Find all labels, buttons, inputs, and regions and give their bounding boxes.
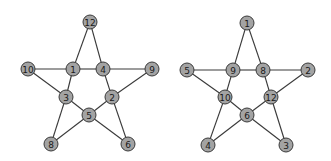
- node-label: 5: [184, 66, 190, 76]
- node-9: 9: [145, 62, 159, 76]
- node-4: 4: [96, 62, 110, 76]
- node-label: 3: [283, 141, 289, 151]
- node-8: 8: [44, 137, 58, 151]
- graph-diagrams: 121014932586159821012643: [0, 0, 331, 161]
- node-6: 6: [121, 137, 135, 151]
- node-label: 9: [230, 66, 236, 76]
- node-label: 12: [84, 18, 95, 28]
- node-5: 5: [180, 63, 194, 77]
- node-label: 3: [63, 93, 69, 103]
- diagram-canvas: 121014932586159821012643: [0, 0, 331, 161]
- left-star: 121014932586: [21, 15, 159, 151]
- node-8: 8: [256, 63, 270, 77]
- node-10: 10: [21, 62, 35, 76]
- node-label: 5: [86, 111, 92, 121]
- node-3: 3: [59, 90, 73, 104]
- node-label: 6: [244, 111, 250, 121]
- node-label: 4: [205, 141, 211, 151]
- node-label: 8: [260, 66, 266, 76]
- node-2: 2: [105, 90, 119, 104]
- node-label: 6: [125, 140, 131, 150]
- node-4: 4: [201, 138, 215, 152]
- node-6: 6: [240, 108, 254, 122]
- node-label: 10: [219, 93, 231, 103]
- node-label: 2: [109, 93, 115, 103]
- node-12: 12: [264, 90, 278, 104]
- node-5: 5: [82, 108, 96, 122]
- edge-12-3: [271, 97, 286, 145]
- node-3: 3: [279, 138, 293, 152]
- node-2: 2: [301, 63, 315, 77]
- node-12: 12: [83, 15, 97, 29]
- node-label: 1: [70, 65, 76, 75]
- node-label: 8: [48, 140, 54, 150]
- node-label: 10: [22, 65, 34, 75]
- node-1: 1: [66, 62, 80, 76]
- node-label: 9: [149, 65, 155, 75]
- node-label: 1: [244, 19, 250, 29]
- node-9: 9: [226, 63, 240, 77]
- node-10: 10: [218, 90, 232, 104]
- node-label: 12: [265, 93, 276, 103]
- node-label: 4: [100, 65, 106, 75]
- node-label: 2: [305, 66, 311, 76]
- right-star: 159821012643: [180, 16, 315, 152]
- node-1: 1: [240, 16, 254, 30]
